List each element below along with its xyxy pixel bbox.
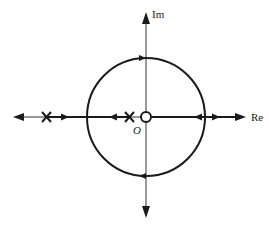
circle-top-arrow-icon [139, 55, 146, 61]
real-axis-right-arrow-icon [235, 113, 246, 121]
imag-axis-down-arrow-icon [142, 206, 150, 218]
origin-label: O [133, 124, 141, 136]
root-locus-diagram: Im Re O [0, 0, 269, 227]
locus-arrow-icon [61, 114, 69, 121]
locus-arrow-icon [194, 114, 202, 121]
imag-axis-up-arrow-icon [142, 12, 150, 24]
locus-arrow-icon [109, 114, 117, 121]
circle-bottom-arrow-icon [139, 173, 146, 179]
zero-origin-icon [141, 112, 151, 122]
real-axis-label: Re [251, 111, 263, 123]
imag-axis-label: Im [152, 8, 165, 20]
real-axis-left-arrow-icon [13, 113, 24, 121]
locus-arrow-icon [212, 114, 220, 121]
